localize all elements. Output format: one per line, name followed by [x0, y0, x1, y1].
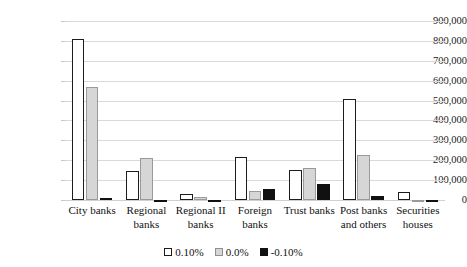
bar: [72, 39, 85, 200]
x-axis-tick-label: Regional II banks: [174, 204, 228, 231]
legend-swatch-icon: [260, 248, 268, 256]
legend-item[interactable]: 0.0%: [215, 246, 249, 258]
bar: [343, 99, 356, 200]
x-axis-tick-label: Foreign banks: [228, 204, 282, 231]
legend-label: 0.0%: [226, 246, 249, 258]
bar: [357, 155, 370, 200]
bar-group: [65, 21, 119, 200]
bar-chart: 900,000800,000700,000600,000500,000400,0…: [0, 0, 467, 267]
x-axis-tick-label: Post banks and others: [336, 204, 390, 231]
bar: [235, 157, 248, 200]
legend-label: 0.10%: [175, 246, 203, 258]
x-axis-tick-label: Securities houses: [391, 204, 445, 231]
bar-group: [119, 21, 173, 200]
legend-item[interactable]: 0.10%: [164, 246, 203, 258]
bar: [194, 197, 207, 200]
chart-legend: 0.10%0.0%-0.10%: [0, 246, 467, 258]
gridline: [65, 200, 445, 201]
bar: [249, 191, 262, 200]
bar: [86, 87, 99, 200]
bar: [208, 200, 221, 202]
bar: [371, 196, 384, 200]
bar-group: [228, 21, 282, 200]
legend-item[interactable]: -0.10%: [260, 246, 303, 258]
bar: [426, 200, 439, 202]
bar: [263, 189, 276, 200]
x-axis-tick-label: Trust banks: [282, 204, 336, 218]
bar: [154, 200, 167, 202]
bar-group: [336, 21, 390, 200]
bar: [317, 184, 330, 200]
x-axis-tick-label: City banks: [65, 204, 119, 218]
bar: [140, 158, 153, 200]
bar: [180, 194, 193, 200]
bar: [398, 192, 411, 200]
bar-group: [391, 21, 445, 200]
x-axis-tick-label: Regional banks: [119, 204, 173, 231]
bar: [100, 198, 113, 200]
bar-group: [174, 21, 228, 200]
legend-swatch-icon: [215, 248, 223, 256]
bar: [289, 170, 302, 200]
bar-group: [282, 21, 336, 200]
plot-area: [65, 21, 445, 200]
legend-label: -0.10%: [271, 246, 303, 258]
bar: [126, 171, 139, 200]
bar: [303, 168, 316, 200]
legend-swatch-icon: [164, 248, 172, 256]
bar: [412, 200, 425, 202]
